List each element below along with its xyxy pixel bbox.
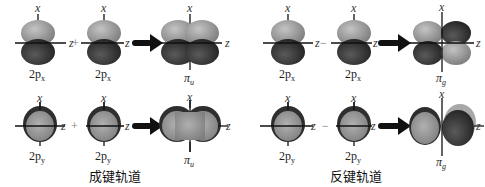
- orbital-label-pi-g: πg: [436, 156, 446, 168]
- axis-label-z: z: [476, 120, 481, 132]
- antibonding-orbital-caption: 反键轨道: [330, 166, 382, 185]
- axis-label-z: z: [371, 120, 376, 132]
- orbital-2px-right-antibonding: [331, 14, 372, 65]
- arrow-icon: [378, 117, 411, 135]
- axis-label-z: z: [61, 120, 66, 132]
- axis-label-x: x: [187, 91, 192, 103]
- operator-plus: +: [72, 37, 79, 49]
- axis-label-z: z: [226, 120, 231, 132]
- arrow-icon: [132, 117, 163, 135]
- orbital-label-pi-u: πu: [184, 154, 194, 166]
- orbital-label-2px: 2px: [29, 68, 45, 80]
- orbital-diagram: [0, 0, 485, 187]
- axis-label-x: x: [285, 2, 290, 14]
- axis-label-x: x: [351, 2, 356, 14]
- axis-label-z: z: [373, 37, 378, 49]
- orbital-label-2py: 2py: [29, 150, 45, 162]
- axis-label-z: z: [476, 37, 481, 49]
- axis-label-z: z: [311, 120, 316, 132]
- orbital-2py-right-antibonding: [336, 102, 372, 146]
- orbital-label-2py: 2py: [345, 150, 361, 162]
- orbital-2py-left-bonding: [15, 102, 65, 146]
- bonding-orbital-caption: 成键轨道: [89, 166, 141, 185]
- orbital-2py-right-bonding: [86, 102, 124, 146]
- orbital-2py-left-antibonding: [260, 102, 313, 146]
- orbital-pi-u-x: [158, 14, 222, 70]
- orbital-pi-g-x: [408, 12, 474, 72]
- orbital-label-pi-g: πg: [436, 72, 446, 84]
- axis-label-z: z: [225, 37, 230, 49]
- orbital-2px-right-bonding: [81, 14, 124, 65]
- axis-label-x: x: [101, 2, 106, 14]
- axis-label-z: z: [315, 37, 320, 49]
- arrow-icon: [378, 34, 411, 52]
- axis-label-z: z: [125, 37, 130, 49]
- orbital-label-2px: 2px: [345, 68, 361, 80]
- orbital-label-pi-u: πu: [184, 72, 194, 84]
- orbital-label-2px: 2px: [95, 68, 111, 80]
- axis-label-x: x: [101, 92, 106, 104]
- orbital-2px-left-bonding: [15, 14, 66, 65]
- axis-label-x: x: [285, 92, 290, 104]
- axis-label-z: z: [125, 120, 130, 132]
- operator-plus: +: [71, 120, 78, 132]
- orbital-label-2px: 2px: [279, 68, 295, 80]
- axis-label-x: x: [439, 1, 444, 13]
- axis-label-x: x: [35, 2, 40, 14]
- operator-minus: −: [322, 120, 329, 132]
- orbital-2px-left-antibonding: [263, 14, 313, 65]
- axis-label-x: x: [37, 92, 42, 104]
- orbital-label-2py: 2py: [95, 150, 111, 162]
- orbital-pi-u-y: [159, 100, 228, 152]
- axis-label-x: x: [187, 2, 192, 14]
- axis-label-x: x: [439, 88, 444, 100]
- axis-label-x: x: [351, 92, 356, 104]
- orbital-label-2py: 2py: [279, 150, 295, 162]
- operator-minus: −: [320, 37, 327, 49]
- orbital-pi-g-y: [409, 98, 484, 156]
